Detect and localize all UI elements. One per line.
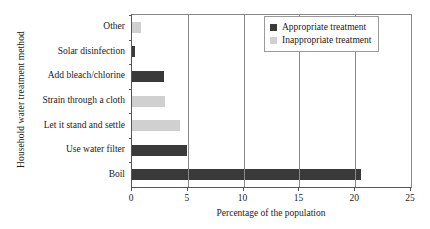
x-axis-tick-label: 15 (283, 192, 313, 204)
x-axis-tick-label: 10 (228, 192, 258, 204)
bar-other (132, 22, 141, 33)
bar-boil (132, 169, 361, 180)
gridline (244, 15, 245, 187)
bar-strain-through-a-cloth (132, 96, 165, 107)
category-label: Strain through a cloth (42, 94, 125, 106)
x-axis-tick (243, 187, 244, 191)
y-axis-tick (129, 64, 132, 65)
category-label: Solar disinfection (58, 45, 125, 57)
legend-item-inappropriate: Inappropriate treatment (270, 34, 371, 47)
y-axis-tick (129, 40, 132, 41)
category-label-column: OtherSolar disinfectionAdd bleach/chlori… (16, 14, 128, 186)
x-axis-ticks: 0510152025 (131, 187, 411, 209)
bar-chart-figure: Household water treatment method OtherSo… (0, 0, 430, 229)
y-axis-tick (129, 89, 132, 90)
gridline (188, 15, 189, 187)
x-axis-tick-label: 0 (116, 192, 146, 204)
bar-let-it-stand-and-settle (132, 120, 180, 131)
legend-item-appropriate: Appropriate treatment (270, 21, 371, 34)
x-axis-tick-label: 5 (172, 192, 202, 204)
category-label: Boil (109, 168, 125, 180)
category-label: Other (103, 20, 125, 32)
bar-use-water-filter (132, 145, 187, 156)
legend-label-appropriate: Appropriate treatment (282, 21, 366, 34)
x-axis-tick (298, 187, 299, 191)
y-axis-tick (129, 113, 132, 114)
legend-swatch-inappropriate-icon (270, 37, 277, 44)
x-axis-tick (354, 187, 355, 191)
x-axis-tick-label: 20 (339, 192, 369, 204)
legend-swatch-appropriate-icon (270, 24, 277, 31)
legend-label-inappropriate: Inappropriate treatment (282, 34, 371, 47)
x-axis-tick (187, 187, 188, 191)
y-axis-tick (129, 15, 132, 16)
category-label: Add bleach/chlorine (48, 69, 125, 81)
bar-solar-disinfection (132, 46, 135, 57)
category-label: Use water filter (66, 143, 125, 155)
chart-legend: Appropriate treatment Inappropriate trea… (264, 16, 379, 52)
x-axis-tick (131, 187, 132, 191)
y-axis-tick (129, 138, 132, 139)
bar-add-bleach-chlorine (132, 71, 164, 82)
category-label: Let it stand and settle (44, 119, 125, 131)
x-axis-tick (410, 187, 411, 191)
x-axis-tick-label: 25 (395, 192, 425, 204)
x-axis-title: Percentage of the population (131, 207, 411, 220)
y-axis-tick (129, 162, 132, 163)
